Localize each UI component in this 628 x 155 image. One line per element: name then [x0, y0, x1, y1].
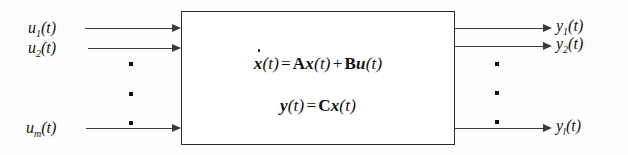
system-block: x(t)=Ax(t)+Bu(t) y(t)=Cx(t) — [181, 11, 455, 145]
arrow-shaft — [86, 128, 172, 129]
state-derivative-var: x — [254, 54, 263, 74]
input-var-u2: u — [28, 39, 36, 56]
output-var: y — [280, 96, 288, 115]
output-arg-yl: (t) — [566, 117, 581, 134]
arrow-shaft — [455, 46, 543, 47]
arrow-shaft — [85, 28, 172, 29]
state-arg-state-eq: (t) — [314, 54, 331, 73]
arrow-head — [172, 44, 181, 52]
input-arrow-u2 — [88, 44, 181, 53]
matrix-a: A — [293, 54, 305, 73]
output-ellipsis-dot-2 — [495, 91, 499, 95]
input-ellipsis-dot-3 — [129, 121, 133, 125]
output-arrow-y1 — [455, 24, 552, 33]
output-equation: y(t)=Cx(t) — [182, 96, 454, 116]
input-arg-u1: (t) — [41, 19, 56, 36]
state-arg-output-eq: (t) — [339, 96, 356, 115]
output-ellipsis-dot-1 — [495, 62, 499, 66]
arrow-shaft — [455, 28, 543, 29]
matrix-c: C — [318, 96, 330, 115]
input-arrow-u1 — [85, 24, 181, 33]
input-var-um: u — [26, 119, 34, 136]
equals-sign-output: = — [304, 96, 318, 115]
output-arg-y1: (t) — [568, 17, 583, 34]
arrow-head — [543, 24, 552, 32]
state-equation: x(t)=Ax(t)+Bu(t) — [182, 54, 454, 74]
arrow-head — [172, 124, 181, 132]
output-arrow-yl — [455, 124, 552, 133]
input-arg-state-eq: (t) — [366, 54, 383, 73]
output-ellipsis-dot-3 — [495, 120, 499, 124]
input-label-u1: u1(t) — [28, 19, 56, 39]
arrow-shaft — [455, 128, 543, 129]
input-var-u1: u — [28, 19, 36, 36]
arrow-head — [172, 24, 181, 32]
output-arg: (t) — [288, 96, 305, 115]
arrow-head — [543, 42, 552, 50]
input-ellipsis-dot-2 — [129, 92, 133, 96]
arrow-head — [543, 124, 552, 132]
state-var-state-eq: x — [305, 54, 314, 73]
input-ellipsis-dot-1 — [129, 62, 133, 66]
input-arrow-um — [86, 124, 181, 133]
output-label-y2: y2(t) — [556, 35, 583, 55]
input-arg-um: (t) — [41, 119, 56, 136]
output-arg-y2: (t) — [568, 35, 583, 52]
plus-sign: + — [331, 54, 345, 73]
block-diagram-canvas: u1(t) u2(t) um(t) x(t)=Ax(t)+Bu(t) y(t)=… — [0, 0, 628, 155]
matrix-b: B — [344, 54, 356, 73]
output-label-yl: yl(t) — [556, 117, 581, 137]
input-arg-u2: (t) — [41, 39, 56, 56]
arrow-shaft — [88, 48, 172, 49]
input-label-um: um(t) — [26, 119, 56, 139]
input-var-state-eq: u — [356, 54, 366, 73]
equals-sign-state: = — [279, 54, 293, 73]
state-derivative-arg: (t) — [262, 54, 279, 73]
output-arrow-y2 — [455, 42, 552, 51]
input-label-u2: u2(t) — [28, 39, 56, 59]
